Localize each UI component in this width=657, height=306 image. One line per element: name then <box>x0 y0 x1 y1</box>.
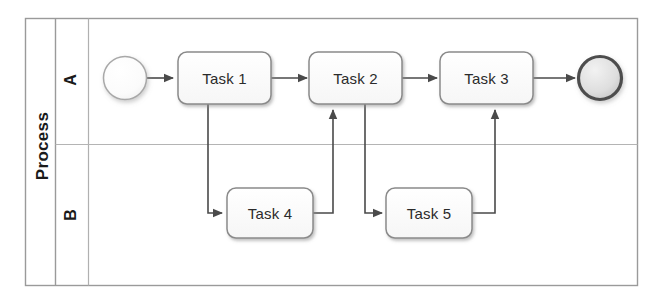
bpmn-diagram <box>0 0 657 306</box>
pool-title: Process <box>31 113 55 179</box>
task-5-box[interactable] <box>386 188 472 238</box>
end-event[interactable] <box>579 57 622 100</box>
lane-label-a: A <box>61 69 81 91</box>
end-event-circle[interactable] <box>579 57 622 100</box>
diagram-canvas: Process A B Task 1 Task 2 Task 3 Task 4 … <box>0 0 657 306</box>
start-event-circle[interactable] <box>104 57 147 100</box>
start-event[interactable] <box>104 57 147 100</box>
lane-label-b: B <box>61 204 81 226</box>
task-4-box[interactable] <box>227 188 313 238</box>
task-3-box[interactable] <box>440 52 533 104</box>
task-2-box[interactable] <box>309 52 402 104</box>
task-1-box[interactable] <box>178 52 271 104</box>
